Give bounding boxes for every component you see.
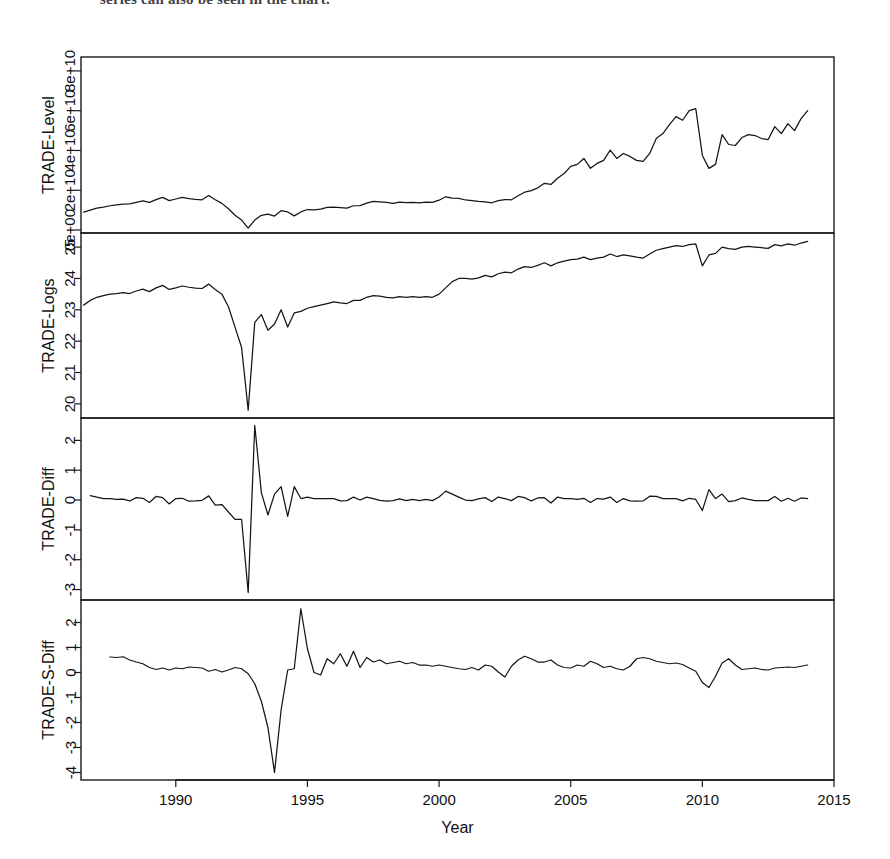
cut-off-caption-text: series can also be seen in the chart. bbox=[100, 0, 330, 8]
y-tick-label: 4e+10 bbox=[62, 129, 79, 171]
y-tick-label: 23 bbox=[62, 301, 79, 318]
y-tick-label: 21 bbox=[62, 364, 79, 381]
x-tick-label: 2010 bbox=[686, 791, 719, 808]
x-tick-label: 1995 bbox=[291, 791, 324, 808]
y-tick-label: 2 bbox=[62, 436, 79, 444]
x-axis-title: Year bbox=[441, 819, 474, 836]
x-tick-label: 2000 bbox=[422, 791, 455, 808]
y-tick-label: -2 bbox=[62, 553, 79, 566]
y-tick-label: 0 bbox=[62, 496, 79, 504]
y-tick-label: 2 bbox=[62, 618, 79, 626]
y-tick-label: 0 bbox=[62, 668, 79, 676]
trade-series-figure: series can also be seen in the chart. 0e… bbox=[0, 0, 890, 859]
y-axis-title: TRADE-Diff bbox=[40, 467, 57, 551]
panel-3: -3-2-1012TRADE-Diff bbox=[40, 418, 835, 600]
x-tick-label: 1990 bbox=[159, 791, 192, 808]
multi-panel-time-series-plot: 0e+002e+104e+106e+108e+10TRADE-Level2021… bbox=[0, 0, 890, 859]
y-tick-label: 1 bbox=[62, 466, 79, 474]
series-line bbox=[84, 109, 808, 228]
y-tick-label: 8e+10 bbox=[62, 50, 79, 92]
y-axis-title: TRADE-Level bbox=[40, 96, 57, 194]
panel-frame bbox=[81, 600, 834, 780]
y-axis-title: TRADE-Logs bbox=[40, 278, 57, 372]
x-tick-label: 2005 bbox=[554, 791, 587, 808]
y-tick-label: 2e+10 bbox=[62, 169, 79, 211]
x-axis: 199019952000200520102015Year bbox=[159, 780, 851, 836]
y-tick-label: -1 bbox=[62, 523, 79, 536]
series-line bbox=[84, 241, 808, 410]
y-tick-label: 25 bbox=[62, 239, 79, 256]
y-tick-label: -3 bbox=[62, 741, 79, 754]
y-tick-label: 24 bbox=[62, 270, 79, 287]
y-tick-label: -2 bbox=[62, 716, 79, 729]
y-tick-label: -3 bbox=[62, 583, 79, 596]
panel-4: -4-3-2-1012TRADE-S-Diff bbox=[40, 600, 835, 780]
x-tick-label: 2015 bbox=[817, 791, 850, 808]
y-tick-label: -1 bbox=[62, 691, 79, 704]
series-line bbox=[90, 425, 807, 592]
y-tick-label: 22 bbox=[62, 333, 79, 350]
y-tick-label: -4 bbox=[62, 766, 79, 779]
panel-2: 202122232425TRADE-Logs bbox=[40, 233, 835, 418]
panel-frame bbox=[81, 57, 834, 233]
panel-frame bbox=[81, 233, 834, 418]
y-axis-title: TRADE-S-Diff bbox=[40, 640, 57, 740]
series-line bbox=[110, 609, 808, 773]
panel-frame bbox=[81, 418, 834, 600]
panel-1: 0e+002e+104e+106e+108e+10TRADE-Level bbox=[40, 50, 835, 251]
y-tick-label: 20 bbox=[62, 396, 79, 413]
y-tick-label: 1 bbox=[62, 643, 79, 651]
y-tick-label: 6e+10 bbox=[62, 90, 79, 132]
